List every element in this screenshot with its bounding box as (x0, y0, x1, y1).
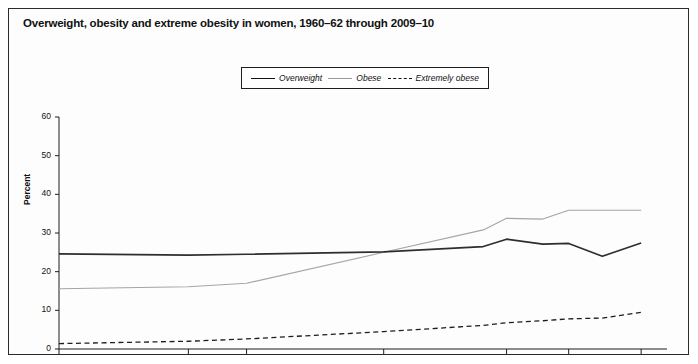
series-line-obese (59, 210, 641, 288)
legend-swatch-dashed-line-icon (388, 75, 412, 81)
series-line-overweight (59, 239, 641, 256)
legend-label-overweight: Overweight (279, 73, 322, 83)
y-axis-tick-label: 20 (25, 267, 51, 276)
chart-legend: Overweight Obese Extremely obese (241, 67, 489, 89)
legend-item-overweight: Overweight (251, 73, 322, 83)
legend-swatch-thin-line-icon (328, 75, 352, 81)
y-axis-ticks (55, 117, 59, 349)
legend-swatch-solid-line-icon (251, 75, 275, 81)
y-axis-tick-label: 10 (25, 305, 51, 314)
y-axis-tick-label: 0 (25, 344, 51, 353)
chart-axes (59, 117, 667, 349)
chart-plot-area: 0102030405060 1960–19621971–19741976–198… (59, 117, 667, 349)
legend-item-obese: Obese (328, 73, 381, 83)
chart-svg (59, 117, 667, 349)
x-axis-ticks (59, 349, 641, 354)
legend-label-obese: Obese (356, 73, 381, 83)
y-axis-tick-label: 40 (25, 189, 51, 198)
legend-item-extremely-obese: Extremely obese (388, 73, 479, 83)
chart-series-group (59, 210, 641, 343)
y-axis-tick-label: 60 (25, 112, 51, 121)
figure-panel: Overweight, obesity and extreme obesity … (8, 8, 689, 355)
y-axis-tick-label: 30 (25, 228, 51, 237)
legend-label-extremely-obese: Extremely obese (416, 73, 479, 83)
y-axis-tick-label: 50 (25, 151, 51, 160)
page-title: Overweight, obesity and extreme obesity … (23, 17, 434, 29)
series-line-extremely-obese (59, 312, 641, 343)
